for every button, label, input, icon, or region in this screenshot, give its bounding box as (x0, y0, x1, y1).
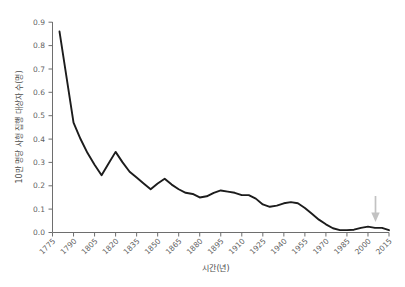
x-axis-title: 시간(년) (202, 263, 229, 273)
y-tick-label: 0.2 (33, 181, 45, 190)
line-chart-canvas: 0.0 0.1 0.2 0.3 0.4 0.5 0.6 0.7 0.8 0.9 … (0, 0, 405, 287)
y-tick-label: 0.3 (33, 158, 45, 167)
y-tick-label: 0.0 (33, 228, 45, 237)
y-axis-title: 10만 명당 사형 집행 대상자 수(명) (14, 70, 24, 183)
chart-figure: 0.0 0.1 0.2 0.3 0.4 0.5 0.6 0.7 0.8 0.9 … (0, 0, 405, 287)
y-tick-label: 0.1 (33, 205, 45, 214)
y-tick-label: 0.8 (33, 41, 45, 50)
y-tick-label: 0.4 (33, 135, 45, 144)
y-tick-label: 0.6 (33, 88, 45, 97)
y-tick-label: 0.7 (33, 65, 45, 74)
y-tick-label: 0.9 (33, 18, 45, 27)
y-tick-label: 0.5 (33, 111, 45, 120)
